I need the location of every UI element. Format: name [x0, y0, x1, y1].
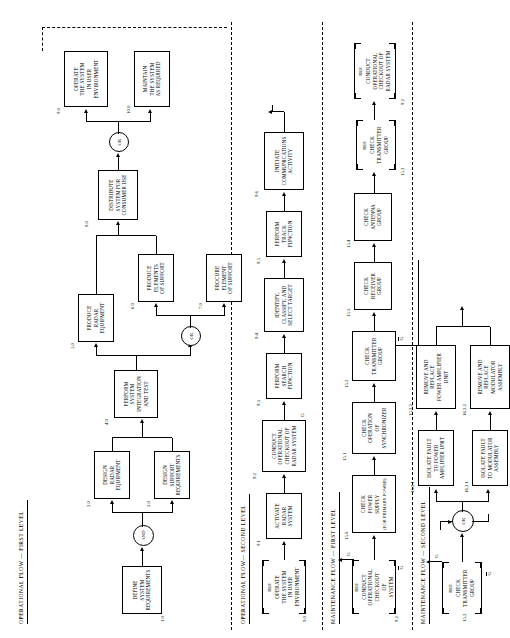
block-check-power-supply[interactable]: CHECK POWER SUPPLY (FOR PRIMARY POWER)	[352, 475, 396, 533]
block-activate-radar-system[interactable]: ACTIVATE RADAR SYSTEM	[266, 493, 302, 539]
block-num-9-4: 9.4	[254, 333, 259, 339]
signal-label-g-92ref: G	[346, 552, 351, 556]
block-design-radar-equipment[interactable]: DESIGN RADAR EQUIPMENT	[94, 451, 130, 499]
block-num-15-2-2: 15.2.2	[408, 404, 413, 416]
block-define-system-requirements[interactable]: DEFINE SYSTEM REQUIREMENTS	[122, 566, 162, 614]
block-num-15-0: 15.0	[344, 532, 349, 540]
block-initiate-communications-activity[interactable]: INITIATE COMMUNICATIONS ACTIVITY	[264, 132, 304, 190]
block-check-transmitter-group[interactable]: CHECK TRANSMITTER GROUP	[352, 331, 396, 381]
block-num-9-1: 9.1	[256, 540, 261, 546]
block-num-16-2-1: 16.2.1	[464, 481, 469, 493]
block-num-9-5: 9.5	[256, 258, 261, 264]
block-num-9-2: 9.2	[252, 473, 257, 479]
block-isolate-fault-to-power-amplifier-unit[interactable]: ISOLATE FAULT TO POWER AMPLIFIER UNIT	[418, 430, 454, 486]
ref-block-conduct-operational-checkout-of-radar-system-top[interactable]: REF. CONDUCT OPERATIONAL CHECKOUT OF RAD…	[354, 43, 396, 99]
signal-label-g-152ref: G	[434, 554, 439, 558]
block-num-15-3: 15.3	[346, 309, 351, 317]
block-distribute-system-for-consumer-use[interactable]: DISTRIBUTE SYSTEM FOR CONSUMER USE	[98, 170, 138, 220]
block-num-15-2-ref-top: 15.2	[400, 168, 405, 176]
block-check-antenna-group[interactable]: CHECK ANTENNA GROUP	[354, 193, 392, 241]
block-isolate-fault-to-modulator-assembly[interactable]: ISOLATE FAULT TO MODULATOR ASSEMBLY	[472, 430, 508, 486]
band-separator-2	[322, 22, 323, 630]
block-perform-search-function[interactable]: PERFORM SEARCH FUNCTION	[266, 353, 302, 399]
block-num-15-2-1: 15.2.1	[410, 481, 415, 493]
block-identify-classify-and-select-target[interactable]: IDENTIFY, CLASSIFY, AND SELECT TARGET	[264, 278, 304, 332]
block-num-2-0: 2.0	[86, 501, 91, 507]
section-label-operational-second: OPERATIONAL FLOW— SECOND LEVEL	[240, 505, 246, 624]
block-num-10-0: 10.0	[126, 106, 131, 114]
block-design-support-requirements[interactable]: DESIGN SUPPORT REQUIREMENTS	[154, 451, 190, 499]
band-separator-3	[412, 22, 413, 630]
block-produce-radar-equipment[interactable]: PRODUCE RADAR EQUIPMENT	[78, 294, 114, 342]
section-label-operational-first: OPERATIONAL FLOW — FIRST LEVEL	[18, 511, 24, 624]
block-num-15-1: 15.1	[342, 453, 347, 461]
block-check-receiver-group[interactable]: CHECK RECEIVER GROUP	[354, 262, 392, 310]
ref-block-check-transmitter-group-top[interactable]: REF. CHECK TRANSMITTER GROUP	[356, 120, 396, 170]
block-num-9-3: 9.3	[256, 400, 261, 406]
ref-block-operate-the-system-in-user-environment[interactable]: REF. OPERATE THE SYSTEM IN USER ENVIRONM…	[262, 560, 306, 614]
block-conduct-operational-checkout-of-radar-system[interactable]: CONDUCT OPERATIONAL CHECKOUT OF RADAR SY…	[262, 420, 306, 472]
block-produce-elements-of-support[interactable]: PRODUCE ELEMENTS OF SUPPORT	[138, 254, 174, 302]
block-num-15-2-ref-low: 15.2	[462, 614, 467, 622]
section-label-maintenance-first: MAINTENANCE FLOW — FIRST LEVEL	[330, 508, 336, 624]
band-separator-1	[231, 22, 232, 630]
block-operate-the-system-in-user-environment[interactable]: OPERATE THE SYSTEM IN USER ENVIRONMENT	[64, 51, 108, 107]
block-num-3-0: 3.0	[146, 501, 151, 507]
block-num-4-0: 4.0	[104, 419, 109, 425]
block-procure-element-of-support[interactable]: PROCURE ELEMENT OF SUPPORT	[206, 254, 242, 302]
block-num-7-0: 7.0	[198, 303, 203, 309]
feedback-dashed-top	[42, 27, 43, 51]
block-maintain-the-system-as-required[interactable]: MAINTAIN THE SYSTEM AS REQUIRED	[134, 51, 170, 107]
block-num-16-2-2: 16.2.2	[462, 404, 467, 416]
block-num-15-2: 15.2	[344, 380, 349, 388]
and-gate-1: AND	[133, 525, 154, 546]
or-gate-operate-maintain: OR	[109, 132, 129, 152]
block-num-9-2-ref: 9.2	[394, 616, 399, 622]
block-num-6-0: 6.0	[130, 303, 135, 309]
block-remove-and-replace-power-amplifier-unit[interactable]: REMOVE AND REPLACE POWER AMPLIFIER UNIT	[416, 345, 456, 409]
block-num-9-0: 9.0	[56, 108, 61, 114]
block-remove-and-replace-modulator-assembly[interactable]: REMOVE AND REPLACE MODULATOR ASSEMBLY	[470, 345, 510, 409]
ref-block-conduct-operational-checkout-of-system[interactable]: REF. CONDUCT OPERATIONAL CHECKOUT OF SYS…	[352, 560, 396, 614]
signal-label-gbar-92ref: G	[398, 566, 404, 570]
block-num-9-6: 9.6	[254, 191, 259, 197]
feedback-dashed-vertical	[42, 27, 227, 28]
signal-label-gbar-152: G	[398, 337, 404, 341]
block-check-operation-of-synchronizer[interactable]: CHECK OPERATION OF SYNCHRONIZER	[352, 402, 396, 454]
or-gate-support: OR	[181, 326, 201, 346]
block-perform-system-integration-and-test[interactable]: PERFORM SYSTEM INTEGRATION AND TEST	[114, 370, 158, 418]
block-num-5-0: 5.0	[70, 343, 75, 349]
block-perform-track-function[interactable]: PERFORM TRACK FUNCTION	[266, 211, 302, 257]
signal-label-gbar-152ref: G	[486, 572, 492, 576]
ref-block-check-transmitter-group-low[interactable]: REF. CHECK TRANSMITTER GROUP	[442, 562, 482, 614]
or-gate-fault-isolation: OR	[452, 510, 474, 532]
block-num-1-0: 1.0	[160, 616, 165, 622]
signal-label-g-out-92: G	[300, 413, 305, 417]
block-num-8-0: 8.0	[84, 221, 89, 227]
block-num-9-2-ref-top: 9.2	[400, 99, 405, 105]
block-num-9-0-ref: 9.0	[302, 616, 307, 622]
block-num-15-4: 15.4	[346, 240, 351, 248]
